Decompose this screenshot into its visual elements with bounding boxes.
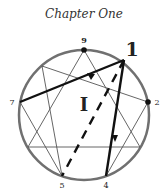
line-8-5 xyxy=(42,66,62,176)
label-1: 1 xyxy=(125,38,138,60)
region-label: I xyxy=(80,94,88,115)
point-2-dot xyxy=(145,99,151,105)
enneagram-diagram: 9 1 2 4 5 7 I xyxy=(0,0,168,195)
label-9: 9 xyxy=(81,35,87,45)
label-7: 7 xyxy=(9,98,14,107)
arrow-icon xyxy=(87,73,95,80)
point-9-dot xyxy=(81,47,87,53)
label-2: 2 xyxy=(154,98,159,107)
label-4: 4 xyxy=(103,181,108,190)
bold-line-7-1 xyxy=(20,60,124,102)
outer-circle xyxy=(19,50,149,180)
label-5: 5 xyxy=(59,181,64,190)
